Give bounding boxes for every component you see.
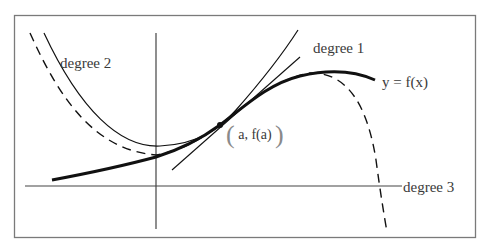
point-label-open-paren: ( (226, 120, 235, 149)
degree-3-label: degree 3 (403, 180, 454, 195)
point-label: ( a, f(a) ) (226, 122, 284, 148)
point-label-close-paren: ) (275, 120, 284, 149)
degree-2-label: degree 2 (60, 56, 111, 71)
function-label: y = f(x) (382, 75, 428, 90)
taylor-diagram: degree 2 degree 1 y = f(x) degree 3 ( a,… (0, 0, 490, 249)
point-label-text: a, f(a) (238, 127, 271, 142)
tangency-point (217, 122, 223, 128)
degree-1-label: degree 1 (313, 41, 364, 56)
function-curve (52, 72, 375, 180)
